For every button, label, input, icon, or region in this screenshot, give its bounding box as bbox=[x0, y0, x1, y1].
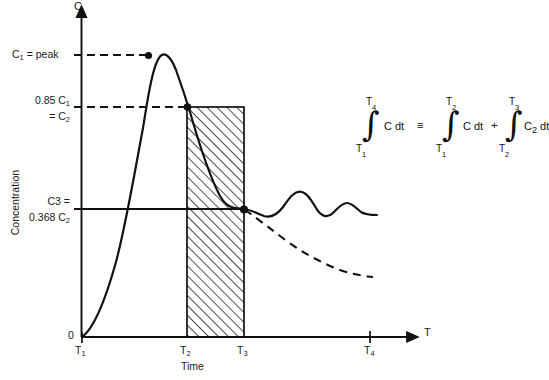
c3-label-line1: C3 = bbox=[14, 195, 70, 208]
integral-2-lower-bound-sub: 1 bbox=[442, 150, 446, 159]
hatched-integration-region bbox=[187, 107, 244, 337]
c1-peak-label-rest: = peak bbox=[24, 48, 59, 60]
c2-label-line2-text: = C bbox=[49, 110, 66, 122]
x-tick-label-t4: T4 bbox=[364, 344, 375, 357]
integral-1-integrand: C dt bbox=[384, 120, 404, 132]
c2-label-line2: = C2 bbox=[14, 110, 70, 123]
x-tick-label-t4-sub: 4 bbox=[370, 349, 374, 358]
equivalence-operator: ≡ bbox=[417, 119, 424, 131]
concentration-time-diagram bbox=[0, 0, 549, 380]
integral-3-integrand: C2 dt bbox=[524, 120, 549, 135]
peak-point-marker bbox=[145, 52, 152, 59]
c3-label-line2: 0.368 C2 bbox=[8, 211, 70, 224]
integral-1-lower-bound: T1 bbox=[356, 143, 366, 157]
integral-sign-1: ∫ bbox=[362, 107, 380, 141]
c2-label-line1-sub: 1 bbox=[66, 99, 70, 108]
x-axis-title: Time bbox=[181, 360, 204, 373]
integral-2-lower-bound: T1 bbox=[436, 143, 446, 157]
x-tick-label-t1-sub: 1 bbox=[81, 349, 85, 358]
c3-point-marker bbox=[240, 206, 248, 214]
x-tick-label-t1: T1 bbox=[75, 344, 86, 357]
origin-label: 0 bbox=[68, 329, 74, 342]
c2-label-line2-sub: 2 bbox=[66, 115, 70, 124]
c1-peak-label: C1 = peak bbox=[12, 48, 59, 61]
x-axis-symbol: T bbox=[424, 326, 431, 340]
c1-peak-label-sub: 1 bbox=[20, 53, 24, 62]
integral-3-lower-bound: T2 bbox=[499, 143, 509, 157]
integral-3-lower-bound-sub: 2 bbox=[505, 150, 509, 159]
c3-label-line2-text: 0.368 C bbox=[29, 211, 66, 223]
x-tick-label-t2-sub: 2 bbox=[186, 349, 190, 358]
c1-peak-label-text: C bbox=[12, 48, 20, 60]
integral-1-lower-bound-sub: 1 bbox=[362, 150, 366, 159]
x-tick-label-t2: T2 bbox=[180, 344, 191, 357]
c3-label-line2-sub: 2 bbox=[66, 216, 70, 225]
integral-sign-2: ∫ bbox=[442, 107, 460, 141]
integral-3-integrand-tail: dt bbox=[537, 120, 549, 132]
y-axis-symbol: C bbox=[74, 0, 82, 14]
x-tick-label-t3: T3 bbox=[237, 344, 248, 357]
c2-point-marker bbox=[184, 103, 192, 111]
x-tick-label-t3-sub: 3 bbox=[243, 349, 247, 358]
integral-sign-3: ∫ bbox=[505, 107, 523, 141]
integral-2-integrand: C dt bbox=[463, 120, 483, 132]
plus-operator: + bbox=[491, 119, 498, 131]
extrapolation-curve bbox=[245, 210, 373, 277]
c2-label-line1: 0.85 C1 bbox=[14, 94, 70, 107]
c3-label-line1-text: C3 = bbox=[48, 195, 70, 207]
c2-label-line1-text: 0.85 C bbox=[35, 94, 66, 106]
integral-3-integrand-text: C bbox=[524, 120, 532, 132]
